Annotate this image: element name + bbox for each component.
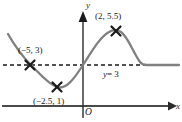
point-label-min: (−2.5, 1) <box>33 97 64 106</box>
y-axis-label: y <box>86 1 90 10</box>
point-label-left: (−5, 3) <box>18 46 43 55</box>
line-equation-label: y= 3 <box>103 70 119 79</box>
graph-figure: (−5, 3) (2, 5.5) (−2.5, 1) y= 3 y x O <box>0 0 182 122</box>
origin-label: O <box>85 108 92 118</box>
point-label-peak: (2, 5.5) <box>95 12 121 21</box>
graph-canvas <box>0 0 182 122</box>
function-curve <box>8 30 179 87</box>
x-axis-label: x <box>176 102 180 111</box>
line-equation-rhs: = 3 <box>107 69 119 79</box>
